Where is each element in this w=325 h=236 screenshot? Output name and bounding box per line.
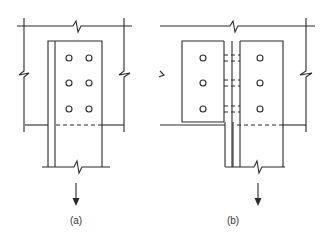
bolt-icon — [257, 55, 263, 61]
bolt-icon — [200, 55, 206, 61]
figure: (a) (b) — [0, 0, 325, 236]
load-arrow-a — [73, 183, 80, 206]
left-member-edge-a — [19, 18, 29, 132]
bottom-break-a — [42, 161, 110, 173]
panel-a — [17, 18, 132, 206]
bolt-icon — [86, 80, 92, 86]
left-member-edge-b — [159, 71, 164, 77]
bolt-icon — [200, 106, 206, 112]
top-member-edge-a — [17, 21, 132, 32]
bottom-break-b — [225, 161, 285, 173]
bolt-icon — [257, 80, 263, 86]
top-member-edge-b — [160, 21, 315, 32]
bolt-icon — [200, 80, 206, 86]
panel-label-a: (a) — [70, 215, 82, 226]
load-arrow-b — [255, 183, 262, 206]
bolt-icon — [257, 106, 263, 112]
plate-outline-a — [48, 41, 102, 167]
right-member-edge-a — [119, 18, 130, 132]
bolt-icon — [66, 55, 72, 61]
bolt-icon — [86, 106, 92, 112]
connection-diagram: (a) (b) — [0, 0, 325, 236]
bolt-group-a — [66, 55, 92, 112]
panel-label-b: (b) — [227, 215, 239, 226]
bolt-icon — [86, 55, 92, 61]
panel-b — [159, 18, 315, 206]
bolt-icon — [66, 80, 72, 86]
bolt-icon — [66, 106, 72, 112]
right-member-edge-b — [300, 18, 312, 132]
